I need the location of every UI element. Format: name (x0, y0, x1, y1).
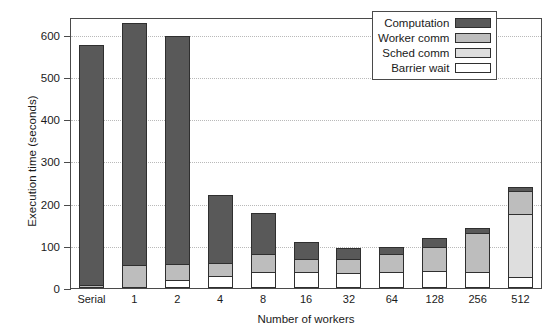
bar-group[interactable] (508, 187, 533, 288)
bar-group[interactable] (379, 247, 404, 288)
bar-segment (379, 254, 404, 272)
bar-segment (122, 23, 147, 265)
bar-segment (251, 272, 276, 288)
bar-segment (508, 277, 533, 288)
legend-swatch (455, 18, 491, 28)
bar-segment (165, 280, 190, 288)
x-axis-title: Number of workers (70, 313, 542, 325)
bar-segment (79, 285, 104, 288)
bar-segment (336, 248, 361, 259)
x-tick-label: 128 (426, 293, 444, 305)
y-tick-label: 400 (41, 114, 60, 126)
legend-item: Computation (378, 15, 491, 30)
bar-segment (251, 254, 276, 272)
bar-segment (336, 259, 361, 273)
bar-segment (208, 276, 233, 288)
y-tick-label: 600 (41, 30, 60, 42)
legend-swatch (455, 63, 491, 73)
bar-segment (294, 242, 319, 260)
bar-group[interactable] (165, 36, 190, 288)
legend-swatch (455, 48, 491, 58)
legend-swatch (455, 33, 491, 43)
legend-item-label: Worker comm (378, 32, 449, 44)
bar-segment (422, 271, 447, 288)
x-tick-label: 8 (260, 293, 266, 305)
bar-segment (422, 238, 447, 246)
y-tick-label: 100 (41, 241, 60, 253)
bar-group[interactable] (79, 45, 104, 288)
x-tick-label: 16 (300, 293, 312, 305)
bar-group[interactable] (122, 23, 147, 288)
x-axis-line (70, 288, 542, 289)
legend-item-label: Barrier wait (391, 62, 449, 74)
y-tick-label: 500 (41, 72, 60, 84)
y-tick-label: 200 (41, 199, 60, 211)
legend-item-label: Computation (384, 17, 449, 29)
bar-group[interactable] (251, 213, 276, 288)
stacked-bar-chart-figure: Execution time (seconds) 010020030040050… (0, 0, 554, 334)
bar-segment (465, 272, 490, 288)
y-tick-mark (64, 289, 71, 290)
bar-segment (465, 233, 490, 272)
bar-segment (122, 265, 147, 288)
bar-segment (336, 273, 361, 288)
bar-group[interactable] (294, 242, 319, 288)
bar-segment (251, 213, 276, 254)
x-tick-label: 32 (343, 293, 355, 305)
bar-segment (508, 214, 533, 277)
y-axis-title: Execution time (seconds) (26, 31, 38, 291)
legend-item: Worker comm (378, 30, 491, 45)
bar-segment (79, 45, 104, 285)
bar-segment (165, 264, 190, 280)
x-tick-label: Serial (77, 293, 105, 305)
legend-item: Sched comm (378, 45, 491, 60)
x-tick-label: 512 (511, 293, 529, 305)
bar-segment (294, 259, 319, 272)
bar-segment (294, 272, 319, 288)
x-tick-label: 64 (386, 293, 398, 305)
bar-group[interactable] (336, 248, 361, 288)
y-tick-label: 0 (54, 283, 60, 295)
bar-group[interactable] (465, 228, 490, 288)
legend-item-label: Sched comm (382, 47, 449, 59)
bar-group[interactable] (422, 238, 447, 288)
legend-item: Barrier wait (378, 60, 491, 75)
x-tick-label: 2 (174, 293, 180, 305)
bar-segment (508, 191, 533, 214)
bar-segment (379, 247, 404, 254)
y-tick-label: 300 (41, 156, 60, 168)
x-tick-label: 4 (217, 293, 223, 305)
bar-segment (379, 272, 404, 288)
bar-segment (422, 247, 447, 271)
bar-segment (208, 195, 233, 263)
x-tick-label: 256 (468, 293, 486, 305)
bar-segment (208, 263, 233, 277)
bar-group[interactable] (208, 195, 233, 288)
bar-segment (165, 36, 190, 264)
x-tick-label: 1 (131, 293, 137, 305)
legend: ComputationWorker commSched commBarrier … (372, 11, 497, 80)
